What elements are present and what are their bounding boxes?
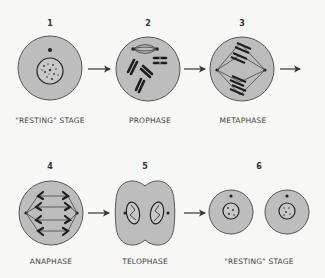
stage-number: 1 <box>47 19 53 28</box>
daughter-cell-left-icon <box>209 190 253 234</box>
stage-label: METAPHASE <box>220 116 267 125</box>
mitosis-diagram: 1 "RESTING" STAGE 2 <box>0 0 325 278</box>
stage-3-metaphase: 3 METAPHASE <box>210 19 274 125</box>
resting-cell-icon <box>18 36 82 100</box>
stage-label: "RESTING" STAGE <box>15 116 85 125</box>
prophase-cell-icon <box>116 37 180 101</box>
stage-number: 5 <box>142 162 148 171</box>
stage-label: PROPHASE <box>129 116 171 125</box>
stage-1-resting: 1 "RESTING" STAGE <box>15 19 85 125</box>
daughter-cell-right-icon <box>265 190 309 234</box>
stage-number: 4 <box>47 162 53 171</box>
stage-label: TELOPHASE <box>121 257 168 266</box>
anaphase-cell-icon <box>19 181 83 245</box>
stage-label: ANAPHASE <box>30 257 72 266</box>
stage-2-prophase: 2 PROPHASE <box>116 19 180 125</box>
stage-label: "RESTING" STAGE <box>224 257 294 266</box>
stage-number: 2 <box>145 19 151 28</box>
stage-5-telophase: 5 TELOPHASE <box>115 162 175 266</box>
metaphase-cell-icon <box>210 37 274 101</box>
stage-6-resting: 6 "RESTING" STAGE <box>209 162 309 266</box>
stage-number: 3 <box>239 19 245 28</box>
stage-number: 6 <box>256 162 262 171</box>
telophase-cell-icon <box>115 181 175 245</box>
stage-4-anaphase: 4 ANAPHASE <box>19 162 83 266</box>
